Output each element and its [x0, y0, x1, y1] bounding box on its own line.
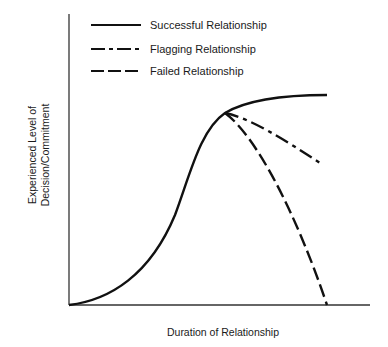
series-flagging-line — [225, 113, 320, 163]
legend: Successful Relationship Flagging Relatio… — [91, 19, 267, 77]
y-axis-label-line-1: Experienced Level of — [26, 106, 38, 204]
y-axis-label-line-2: Decision/Commitment — [39, 104, 51, 207]
y-axis-label: Experienced Level of Decision/Commitment — [26, 104, 51, 207]
series-failed-line — [225, 113, 327, 305]
chart: Successful Relationship Flagging Relatio… — [0, 0, 388, 347]
x-axis-label: Duration of Relationship — [167, 326, 279, 338]
series-successful-line — [69, 95, 327, 305]
legend-label-failed: Failed Relationship — [150, 65, 244, 77]
legend-label-successful: Successful Relationship — [150, 19, 267, 31]
legend-label-flagging: Flagging Relationship — [150, 43, 256, 55]
